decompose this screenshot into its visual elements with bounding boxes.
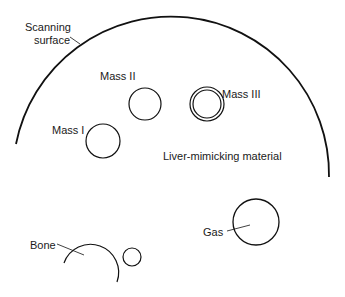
phantom-diagram: Scanning surface Mass II Mass I Mass III…	[0, 0, 345, 297]
gas-circle	[233, 199, 279, 245]
mass-1-label: Mass I	[52, 124, 84, 136]
scanning-surface-label-line2: surface	[34, 34, 70, 46]
mass-3-label: Mass III	[222, 88, 261, 100]
small-bone-circle	[123, 248, 141, 266]
bone-label: Bone	[30, 239, 56, 251]
mass-1-circle	[86, 124, 120, 158]
mass-3-inner-circle	[193, 90, 221, 118]
mass-3-outer-circle	[190, 87, 224, 121]
liver-material-label: Liver-mimicking material	[163, 150, 282, 162]
gas-leader	[227, 225, 250, 231]
scanning-surface-leader	[70, 37, 80, 44]
mass-2-circle	[129, 88, 161, 120]
scanning-surface-label-line1: Scanning	[25, 21, 71, 33]
gas-label: Gas	[203, 226, 224, 238]
mass-2-label: Mass II	[100, 70, 135, 82]
